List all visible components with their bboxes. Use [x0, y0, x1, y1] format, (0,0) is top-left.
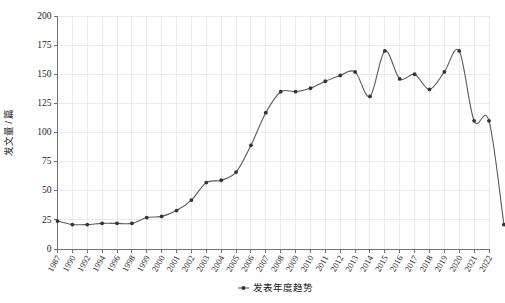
x-tick-label: 1992 [75, 254, 92, 274]
y-tick-label: 0 [47, 244, 52, 254]
x-tick-label: 1999 [135, 254, 152, 274]
data-point-marker: 2005: 66 [234, 170, 238, 174]
data-point-marker: 2000: 28 [160, 214, 164, 218]
x-tick-label: 2003 [194, 254, 211, 274]
data-point-marker: 2017: 150 [413, 72, 417, 76]
legend-entry-label: 发表年度趋势 [253, 282, 313, 293]
x-tick-label: 2012 [328, 254, 345, 274]
data-point-marker: 2008: 135 [279, 90, 283, 94]
y-tick-label: 100 [37, 127, 52, 137]
data-point-marker: 1990: 21 [70, 223, 74, 227]
data-point-marker: 2014: 131 [368, 94, 372, 98]
chart-legend[interactable]: 发表年度趋势 [238, 282, 313, 293]
x-tick-label: 1996 [105, 253, 123, 273]
x-tick-label: 2015 [373, 254, 390, 274]
data-point-marker: 2013: 152 [353, 70, 357, 74]
x-tick-label: 2004 [209, 253, 227, 273]
x-tick-label: 2002 [179, 254, 196, 274]
data-point-marker: 2006: 89 [249, 143, 253, 147]
data-point-marker: 2007: 117 [264, 111, 268, 115]
data-point-marker: 1994: 22 [100, 221, 104, 225]
x-tick-label: 1994 [90, 253, 108, 273]
data-point-marker: 2002: 42 [190, 198, 194, 202]
data-point-marker: 2004: 59 [219, 178, 223, 182]
y-axis-ticks: 0255075100125150175200 [37, 11, 57, 254]
x-tick-label: 1990 [60, 254, 77, 274]
y-tick-label: 75 [42, 156, 52, 166]
data-point-marker: 2012: 149 [338, 74, 342, 78]
data-point-marker: 2018: 137 [428, 87, 432, 91]
y-axis-title-label: 发文量 / 篇 [3, 109, 14, 157]
x-tick-label: 2021 [462, 254, 479, 274]
x-tick-label: 2020 [447, 254, 464, 274]
x-tick-label: 2007 [254, 253, 272, 273]
x-axis-ticks: 1987199019921994199619981999200020012002… [45, 249, 494, 273]
y-tick-label: 175 [37, 40, 52, 50]
data-point-marker: 2015: 170 [383, 49, 387, 53]
data-point-marker: 2016: 146 [398, 77, 402, 81]
x-tick-label: 2008 [269, 254, 286, 274]
data-point-marker: 2021: 110 [472, 119, 476, 123]
data-point-marker: 1987: 24 [56, 219, 60, 223]
data-point-marker: 1999: 27 [145, 216, 149, 220]
x-tick-label: 2011 [313, 254, 330, 274]
x-tick-label: 2006 [239, 253, 257, 273]
data-point-marker: 2020: 170 [457, 49, 461, 53]
data-markers: 1987: 241990: 211992: 211994: 221996: 22… [56, 49, 505, 226]
x-tick-label: 2013 [343, 254, 360, 274]
y-tick-label: 125 [37, 98, 52, 108]
data-point-marker: 2010: 138 [309, 86, 313, 90]
y-tick-label: 25 [42, 215, 52, 225]
data-point-marker: 2022: 110 [487, 119, 491, 123]
y-tick-label: 150 [37, 69, 52, 79]
legend-marker-icon [242, 286, 246, 290]
x-tick-label: 2018 [417, 254, 434, 274]
x-tick-label: 2016 [388, 253, 406, 273]
y-axis-title: 发文量 / 篇 [3, 109, 14, 157]
x-tick-label: 1998 [120, 254, 137, 274]
data-point-marker: 1998: 22 [130, 221, 134, 225]
data-point-marker: 2003: 57 [204, 181, 208, 185]
data-point-marker: 1992: 21 [85, 223, 89, 227]
x-tick-label: 2005 [224, 254, 241, 274]
data-point-marker: 1996: 22 [115, 221, 119, 225]
x-tick-label: 2010 [298, 254, 315, 274]
x-tick-label: 2022 [477, 254, 494, 274]
gridlines [58, 16, 491, 249]
x-tick-label: 2001 [164, 254, 181, 274]
line-chart-plot: 0255075100125150175200 19871990199219941… [0, 0, 505, 303]
data-point-marker: 2009: 135 [294, 90, 298, 94]
y-tick-label: 200 [37, 11, 52, 21]
x-tick-label: 2014 [358, 253, 376, 273]
data-point-marker: 2001: 33 [175, 209, 179, 213]
x-tick-label: 2000 [150, 254, 167, 274]
x-tick-label: 1987 [45, 253, 63, 273]
chart-container: 0255075100125150175200 19871990199219941… [0, 0, 505, 303]
y-tick-label: 50 [42, 185, 52, 195]
x-tick-label: 2019 [432, 254, 449, 274]
x-tick-label: 2017 [402, 253, 420, 273]
data-point-marker: 2011: 144 [323, 79, 327, 83]
data-point-marker: 2019: 152 [442, 70, 446, 74]
x-tick-label: 2009 [283, 254, 300, 274]
